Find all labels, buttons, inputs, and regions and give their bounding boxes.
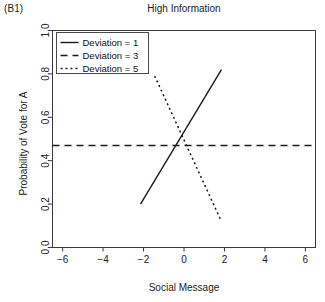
- x-axis-ticks: −6−4−20246: [57, 248, 309, 265]
- x-tick-label: −2: [138, 254, 150, 265]
- x-tick-label: 2: [222, 254, 228, 265]
- y-tick-label: 0.4: [40, 153, 51, 167]
- x-tick-label: −4: [97, 254, 109, 265]
- legend-label: Deviation = 3: [83, 50, 139, 61]
- x-tick-label: −6: [57, 254, 69, 265]
- x-tick-label: 4: [262, 254, 268, 265]
- series-group: [53, 70, 316, 220]
- y-tick-label: 0.8: [40, 67, 51, 81]
- series-dotted: [155, 76, 221, 219]
- plot-area: 0.00.20.40.60.81.0 −6−4−20246 Deviation …: [0, 0, 325, 302]
- figure-panel-b1: (B1) High Information Probability of Vot…: [0, 0, 325, 302]
- y-axis-ticks: 0.00.20.40.60.81.0: [40, 23, 53, 254]
- series-solid: [141, 70, 222, 205]
- legend-label: Deviation = 1: [83, 37, 139, 48]
- y-tick-label: 0.0: [40, 240, 51, 254]
- legend-label: Deviation = 5: [83, 63, 139, 74]
- y-tick-label: 1.0: [40, 23, 51, 37]
- x-tick-label: 6: [303, 254, 309, 265]
- y-tick-label: 0.6: [40, 110, 51, 124]
- y-tick-label: 0.2: [40, 197, 51, 211]
- x-tick-label: 0: [181, 254, 187, 265]
- chart-legend: Deviation = 1Deviation = 3Deviation = 5: [57, 33, 149, 75]
